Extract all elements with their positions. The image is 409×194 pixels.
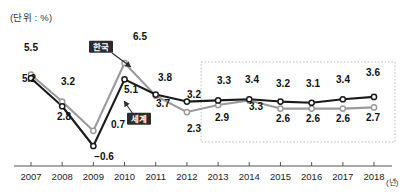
x-tick-2015: 2015 xyxy=(270,171,291,182)
x-tick-2012: 2012 xyxy=(176,171,197,182)
x-tick-2017: 2017 xyxy=(332,171,353,182)
world-label-2008: 2.8 xyxy=(57,111,71,122)
world-label-2010: 5.1 xyxy=(124,84,138,95)
korea-label-2013: 2.9 xyxy=(215,112,229,123)
korea-label-2018: 2.7 xyxy=(366,112,380,123)
korea-label-2009: 0.7 xyxy=(111,119,125,130)
korea-label-2017: 2.6 xyxy=(336,113,350,124)
korea-label-2007: 5.5 xyxy=(24,42,38,53)
x-tick-2007: 2007 xyxy=(20,171,41,182)
korea-label-2014: 3.3 xyxy=(249,101,263,112)
world-label-2011: 3.8 xyxy=(158,72,172,83)
chart-plot-area xyxy=(0,0,409,194)
korea-label-2008: 3.2 xyxy=(61,76,75,87)
world-label-2009: −0.6 xyxy=(94,151,114,162)
korea-tag: 한국 xyxy=(89,41,113,53)
korea-label-2012: 2.3 xyxy=(187,123,201,134)
korea-label-2015: 2.6 xyxy=(276,113,290,124)
series-lines xyxy=(31,63,374,146)
x-axis-unit-label: (년) xyxy=(386,176,398,187)
world-label-2015: 3.2 xyxy=(276,78,290,89)
x-tick-2010: 2010 xyxy=(114,171,135,182)
x-tick-2009: 2009 xyxy=(83,171,104,182)
x-tick-2008: 2008 xyxy=(52,171,73,182)
x-axis xyxy=(14,162,392,166)
x-tick-2014: 2014 xyxy=(239,171,260,182)
world-label-2018: 3.6 xyxy=(366,67,380,78)
korea-label-2010: 6.5 xyxy=(133,31,147,42)
world-label-2014: 3.4 xyxy=(245,74,259,85)
world-label-2013: 3.3 xyxy=(217,75,231,86)
world-label-2007: 5.2 xyxy=(22,73,36,84)
x-tick-2011: 2011 xyxy=(146,171,166,182)
x-tick-2018: 2018 xyxy=(363,171,384,182)
line-chart: (단위 : %) 2007200820092010201120122013201… xyxy=(0,0,409,194)
world-label-2012: 3.2 xyxy=(187,89,201,100)
series-markers xyxy=(28,60,376,148)
x-tick-2016: 2016 xyxy=(301,171,322,182)
korea-label-2011: 3.7 xyxy=(156,98,170,109)
world-label-2016: 3.1 xyxy=(306,78,320,89)
korea-label-2016: 2.6 xyxy=(306,113,320,124)
world-label-2017: 3.4 xyxy=(336,74,350,85)
world-tag: 세계 xyxy=(127,113,151,125)
x-tick-2013: 2013 xyxy=(208,171,229,182)
